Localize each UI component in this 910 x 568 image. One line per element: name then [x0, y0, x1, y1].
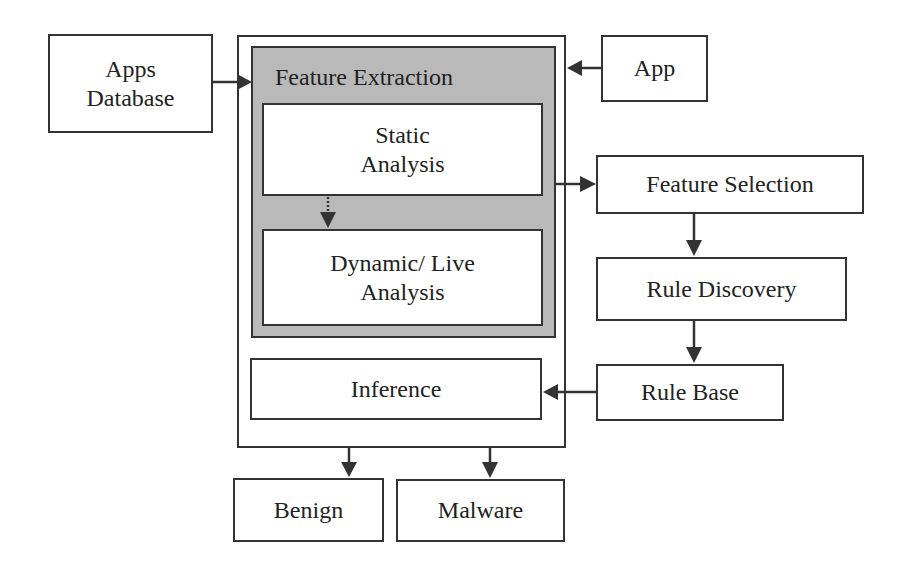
arrow-right-icon	[213, 74, 252, 90]
arrow-left-icon	[543, 384, 596, 400]
arrow-down-icon	[686, 214, 702, 256]
arrow-down-icon	[482, 448, 498, 478]
arrow-left-icon	[567, 60, 601, 76]
arrow-down-icon	[341, 448, 357, 477]
arrow-down-icon	[686, 321, 702, 363]
connector-arrows	[0, 0, 910, 568]
arrow-down-dotted-icon	[320, 197, 336, 228]
arrow-right-icon	[556, 176, 596, 192]
